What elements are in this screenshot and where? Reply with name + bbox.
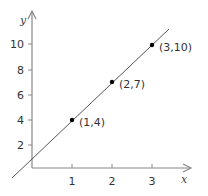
data-point-1 xyxy=(70,118,74,122)
point-label-1: (1,4) xyxy=(79,116,105,129)
chart: 1 2 3 2 4 6 8 10 y x (1,4) (2,7) (3,10) xyxy=(0,0,208,196)
point-label-2: (2,7) xyxy=(119,78,145,91)
y-tick-label-4: 4 xyxy=(17,114,24,127)
y-axis-label: y xyxy=(19,14,27,27)
data-point-2 xyxy=(110,80,114,84)
point-label-3: (3,10) xyxy=(159,41,192,54)
trend-line xyxy=(12,29,169,178)
y-tick-label-8: 8 xyxy=(17,64,24,77)
y-tick-label-10: 10 xyxy=(10,38,24,51)
y-tick-label-2: 2 xyxy=(17,139,24,152)
x-tick-label-3: 3 xyxy=(149,175,156,188)
y-tick-label-6: 6 xyxy=(17,89,24,102)
x-tick-label-1: 1 xyxy=(69,175,76,188)
x-tick-label-2: 2 xyxy=(109,175,116,188)
data-point-3 xyxy=(150,43,154,47)
x-axis-label: x xyxy=(181,173,188,186)
